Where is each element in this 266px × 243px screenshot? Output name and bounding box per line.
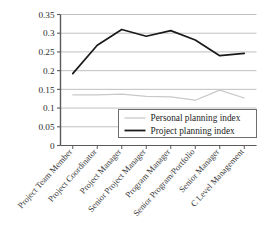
y-tick-label: 0.35: [38, 10, 54, 20]
y-tick-label: 0.05: [38, 122, 54, 132]
y-tick-label: 0.1: [43, 103, 55, 113]
legend-label: Personal planning index: [151, 113, 241, 123]
y-tick-label: 0.25: [38, 47, 54, 57]
chart-canvas: 00.050.10.150.20.250.30.35 Project Team …: [0, 0, 266, 243]
chart-legend: Personal planning indexProject planning …: [119, 110, 257, 138]
line-chart: 00.050.10.150.20.250.30.35 Project Team …: [0, 0, 266, 243]
y-tick-label: 0.2: [43, 66, 55, 76]
legend-label: Project planning index: [151, 126, 236, 136]
y-tick-label: 0: [50, 141, 55, 151]
y-tick-label: 0.15: [38, 85, 54, 95]
y-tick-label: 0.3: [43, 28, 55, 38]
